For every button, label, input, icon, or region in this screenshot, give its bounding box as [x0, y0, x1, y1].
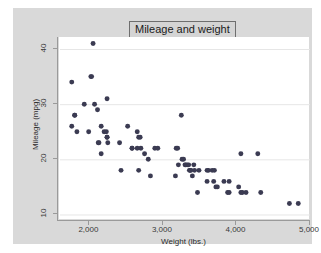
scatter-point: [227, 190, 232, 195]
x-tick-label: 5,000: [289, 226, 321, 234]
scatter-point: [212, 168, 217, 173]
scatter-point: [211, 179, 216, 184]
scatter-point: [191, 162, 196, 167]
scatter-point: [255, 151, 260, 156]
y-axis-title: Mileage (mpg): [31, 80, 40, 170]
scatter-point: [179, 113, 184, 118]
scatter-point: [91, 41, 96, 46]
scatter-plot-svg: [60, 38, 310, 220]
scatter-point: [95, 107, 100, 112]
scatter-point: [105, 140, 110, 145]
scatter-point: [105, 135, 110, 140]
chart-title: Mileage and weight: [129, 21, 236, 38]
x-tick-label: 2,000: [68, 226, 108, 234]
data-points: [69, 41, 300, 206]
scatter-point: [192, 168, 197, 173]
scatter-point: [89, 74, 94, 79]
scatter-point: [173, 173, 178, 178]
y-tick-label: 30: [40, 94, 48, 112]
y-tick-label: 40: [40, 39, 48, 57]
scatter-point: [142, 151, 147, 156]
scatter-point: [104, 129, 109, 134]
scatter-point: [72, 113, 77, 118]
scatter-point: [175, 146, 180, 151]
x-tick-label: 3,000: [142, 226, 182, 234]
scatter-point: [119, 168, 124, 173]
scatter-point: [197, 168, 202, 173]
scatter-point: [181, 157, 186, 162]
y-tick-mark: [53, 103, 57, 104]
scatter-point: [186, 162, 191, 167]
y-tick-mark: [53, 48, 57, 49]
scatter-point: [69, 124, 74, 129]
scatter-point: [227, 179, 232, 184]
scatter-point: [238, 151, 243, 156]
gridlines: [60, 50, 310, 215]
scatter-point: [69, 80, 74, 85]
plot-area: [59, 37, 309, 219]
y-tick-label: 20: [40, 149, 48, 167]
scatter-point: [136, 168, 141, 173]
scatter-point: [105, 96, 110, 101]
scatter-point: [205, 179, 210, 184]
scatter-point: [74, 129, 79, 134]
x-axis-title: Weight (lbs.): [57, 237, 310, 246]
y-axis-line: [57, 37, 58, 220]
scatter-point: [135, 129, 140, 134]
y-tick-mark: [53, 213, 57, 214]
scatter-point: [92, 102, 97, 107]
scatter-point: [82, 102, 87, 107]
scatter-point: [155, 146, 160, 151]
scatter-point: [130, 146, 135, 151]
y-tick-mark: [53, 158, 57, 159]
x-axis-line: [57, 220, 310, 221]
scatter-point: [148, 173, 153, 178]
scatter-point: [287, 201, 292, 206]
scatter-point: [195, 190, 200, 195]
scatter-point: [244, 190, 249, 195]
scatter-point: [176, 162, 181, 167]
scatter-point: [125, 124, 130, 129]
scatter-point: [296, 201, 301, 206]
scatter-point: [99, 151, 104, 156]
scatter-point: [117, 140, 122, 145]
scatter-point: [99, 124, 104, 129]
scatter-point: [97, 140, 102, 145]
scatter-point: [258, 190, 263, 195]
scatter-point: [86, 129, 91, 134]
x-tick-label: 4,000: [215, 226, 255, 234]
scatter-point: [135, 146, 140, 151]
scatter-point: [236, 184, 241, 189]
screenshot-root: Mileage and weight 10203040 2,0003,0004,…: [0, 0, 321, 253]
scatter-point: [222, 179, 227, 184]
scatter-point: [146, 157, 151, 162]
scatter-point: [190, 173, 195, 178]
graph-region: Mileage and weight 10203040 2,0003,0004,…: [13, 8, 312, 244]
scatter-point: [215, 184, 220, 189]
scatter-point: [138, 135, 143, 140]
y-tick-label: 10: [40, 204, 48, 222]
